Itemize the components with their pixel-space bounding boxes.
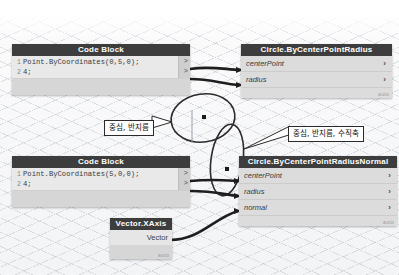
callout-tail-upper	[152, 116, 172, 128]
code-line: 2 4;	[12, 179, 190, 189]
screenshot-root: Code Block 1 Point.ByCoordinates(0,5,0);…	[0, 0, 399, 275]
center-point-upper	[202, 115, 206, 119]
center-point-lower	[225, 167, 229, 171]
output-port-chevron[interactable]: >	[184, 180, 188, 187]
auto-badge: auto	[383, 219, 394, 225]
input-port-centerpoint[interactable]: centerPoint ›	[241, 56, 392, 72]
wire-cb2-out2-to-radius2	[190, 191, 238, 196]
circle-geometry-upper	[168, 90, 238, 146]
code-line-text: Point.ByCoordinates(0,5,0);	[23, 58, 190, 66]
input-port-label: normal	[239, 203, 388, 212]
code-line-text: Point.ByCoordinates(5,0,0);	[23, 170, 190, 178]
output-port-chevron[interactable]: >	[184, 58, 188, 65]
node-footer-circle-normal: auto	[239, 216, 397, 226]
code-line: 1 Point.ByCoordinates(0,5,0);	[12, 57, 190, 67]
input-port-label: radius	[241, 75, 383, 84]
wire-vector-to-normal	[170, 211, 238, 240]
node-footer-2	[12, 191, 190, 207]
code-block-output-ports-2[interactable]: > >	[178, 168, 190, 190]
node-body-vector-xaxis: Vector auto	[110, 230, 172, 259]
input-port-label: centerPoint	[239, 171, 388, 180]
node-footer-vector: auto	[110, 245, 172, 259]
callout-center-radius-normal: 중심, 반지름, 수직축	[288, 126, 364, 142]
input-port-normal[interactable]: normal ›	[239, 200, 397, 216]
wire-cb2-out1-to-centerpoint2	[190, 180, 238, 181]
output-port-chevron[interactable]: >	[184, 68, 188, 75]
output-port-vector[interactable]: Vector	[110, 230, 172, 245]
node-title-code-block-2: Code Block	[12, 156, 190, 168]
node-circle-by-center-point-radius[interactable]: Circle.ByCenterPointRadius Circle center…	[241, 44, 392, 98]
code-line: 2 4;	[12, 67, 190, 77]
input-port-label: centerPoint	[241, 59, 383, 68]
auto-badge: auto	[158, 252, 169, 258]
input-port-centerpoint-normal[interactable]: centerPoint ›	[239, 168, 397, 184]
chevron-right-icon: ›	[388, 187, 397, 196]
node-footer-1	[12, 79, 190, 95]
code-line-number: 1	[12, 59, 23, 66]
node-title-circle-by-center-point-radius: Circle.ByCenterPointRadius	[241, 44, 392, 56]
chevron-right-icon: ›	[383, 75, 392, 84]
chevron-right-icon: ›	[383, 59, 392, 68]
node-circle-by-center-point-radius-normal[interactable]: Circle.ByCenterPointRadiusNormal Circle …	[239, 156, 397, 226]
input-port-radius[interactable]: radius ›	[241, 72, 392, 88]
code-line-text: 4;	[23, 180, 190, 188]
input-port-radius-normal[interactable]: radius ›	[239, 184, 397, 200]
input-port-label: radius	[239, 187, 388, 196]
code-line: 1 Point.ByCoordinates(5,0,0);	[12, 169, 190, 179]
node-body-circle-by-center-point-radius: Circle centerPoint › radius › auto	[241, 56, 392, 98]
callout-tail-lower	[244, 126, 292, 149]
node-code-block-1[interactable]: Code Block 1 Point.ByCoordinates(0,5,0);…	[12, 44, 190, 95]
code-line-number: 2	[12, 69, 23, 76]
node-title-circle-by-center-point-radius-normal: Circle.ByCenterPointRadiusNormal	[239, 156, 397, 168]
chevron-right-icon: ›	[388, 171, 397, 180]
output-port-chevron[interactable]: >	[184, 170, 188, 177]
node-body-code-block-2: 1 Point.ByCoordinates(5,0,0); 2 4; > >	[12, 168, 190, 207]
node-body-code-block-1: 1 Point.ByCoordinates(0,5,0); 2 4; > >	[12, 56, 190, 95]
node-title-vector-xaxis: Vector.XAxis	[110, 218, 172, 230]
code-line-number: 2	[12, 181, 23, 188]
node-title-code-block-1: Code Block	[12, 44, 190, 56]
auto-badge: auto	[378, 91, 389, 97]
code-editor-2[interactable]: 1 Point.ByCoordinates(5,0,0); 2 4; > >	[12, 168, 190, 191]
node-vector-xaxis[interactable]: Vector.XAxis Vector auto	[110, 218, 172, 259]
node-body-circle-by-center-point-radius-normal: Circle centerPoint › radius › normal › a…	[239, 168, 397, 226]
node-code-block-2[interactable]: Code Block 1 Point.ByCoordinates(5,0,0);…	[12, 156, 190, 207]
node-footer-circle-radius: auto	[241, 88, 392, 98]
wire-cb1-out2-to-radius	[190, 79, 240, 85]
dynamo-canvas[interactable]: Code Block 1 Point.ByCoordinates(0,5,0);…	[0, 14, 399, 275]
chevron-right-icon: ›	[388, 203, 397, 212]
code-line-number: 1	[12, 171, 23, 178]
callout-center-radius: 중심, 반지름	[104, 120, 154, 136]
code-line-text: 4;	[23, 68, 190, 76]
code-block-output-ports-1[interactable]: > >	[178, 56, 190, 78]
code-editor-1[interactable]: 1 Point.ByCoordinates(0,5,0); 2 4; > >	[12, 56, 190, 79]
wire-cb1-out1-to-centerpoint	[190, 68, 240, 70]
